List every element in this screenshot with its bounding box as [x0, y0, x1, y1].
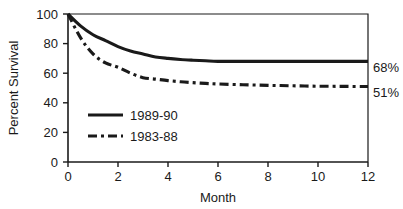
annotation-51-percent: 51% — [373, 85, 399, 100]
x-tick-label-6: 6 — [214, 169, 221, 184]
y-tick-label-0: 0 — [51, 155, 58, 170]
x-tick-label-8: 8 — [264, 169, 271, 184]
x-tick-label-2: 2 — [114, 169, 121, 184]
y-tick-label-100: 100 — [36, 7, 58, 22]
y-tick-label-80: 80 — [44, 36, 58, 51]
x-tick-label-0: 0 — [64, 169, 71, 184]
x-axis-title: Month — [200, 190, 236, 205]
chart-legend: 1989-90 1983-88 — [88, 108, 178, 144]
y-tick-label-40: 40 — [44, 95, 58, 110]
x-tick-label-12: 12 — [361, 169, 375, 184]
y-axis-title: Percent Survival — [6, 41, 21, 136]
annotation-68-percent: 68% — [373, 60, 399, 75]
x-tick-label-10: 10 — [311, 169, 325, 184]
chart-canvas: 0 20 40 60 80 100 0 2 4 6 8 10 12 — [0, 0, 403, 209]
legend-label-1989-90: 1989-90 — [130, 108, 178, 123]
plot-frame — [68, 14, 368, 162]
y-tick-label-20: 20 — [44, 125, 58, 140]
series-line-1983-88 — [68, 14, 368, 87]
survival-chart-figure: 0 20 40 60 80 100 0 2 4 6 8 10 12 — [0, 0, 403, 209]
series-line-1989-90 — [68, 14, 368, 61]
y-axis-tick-labels: 0 20 40 60 80 100 — [36, 7, 58, 170]
y-tick-label-60: 60 — [44, 66, 58, 81]
x-tick-label-4: 4 — [164, 169, 171, 184]
x-axis-tick-labels: 0 2 4 6 8 10 12 — [64, 169, 375, 184]
legend-label-1983-88: 1983-88 — [130, 129, 178, 144]
